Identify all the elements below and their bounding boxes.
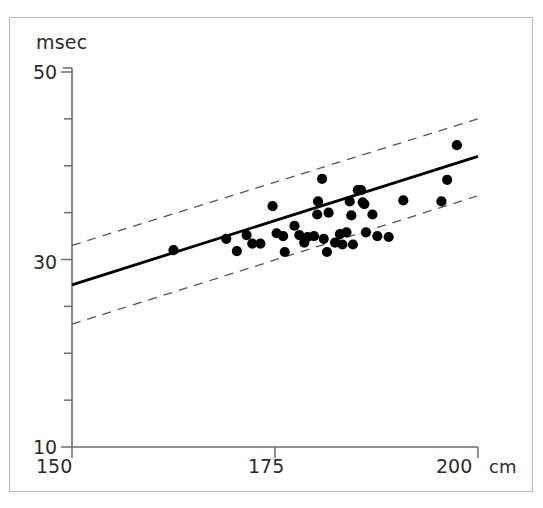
scatter-point: [289, 221, 299, 231]
scatter-point: [359, 199, 369, 209]
lower-confidence-band: [72, 196, 478, 324]
scatter-point: [168, 245, 178, 255]
scatter-point: [241, 230, 251, 240]
scatter-point: [356, 185, 366, 195]
x-tick-label-right: 200: [436, 455, 472, 477]
scatter-point: [309, 231, 319, 241]
regression-line-group: [72, 156, 478, 284]
y-tick-label-top: 50: [33, 61, 57, 83]
scatter-point: [372, 231, 382, 241]
scatter-point: [436, 196, 446, 206]
scatter-point: [346, 210, 356, 220]
axes-group: [61, 68, 478, 458]
scatter-point: [348, 239, 358, 249]
x-tick-label-left: 150: [36, 455, 72, 477]
scatter-point: [452, 140, 462, 150]
scatter-point: [267, 201, 277, 211]
scatter-point: [278, 231, 288, 241]
y-tick-label-middle: 30: [33, 251, 57, 273]
regression-line: [72, 156, 478, 284]
scatter-point: [232, 246, 242, 256]
scatter-point: [322, 247, 332, 257]
chart-figure: msec 50 30 10 150 175 200 cm: [0, 0, 543, 508]
y-axis-title: msec: [36, 31, 87, 53]
x-tick-label-middle: 175: [248, 455, 284, 477]
scatter-point: [312, 209, 322, 219]
scatter-point: [280, 247, 290, 257]
scatter-point: [313, 196, 323, 206]
scatter-point: [398, 195, 408, 205]
scatter-point: [317, 174, 327, 184]
scatter-point: [384, 232, 394, 242]
scatter-point: [337, 239, 347, 249]
scatter-point: [341, 227, 351, 237]
x-axis-unit-label: cm: [489, 456, 516, 477]
scatter-point: [367, 209, 377, 219]
scatter-point: [255, 238, 265, 248]
scatter-point: [319, 234, 329, 244]
scatter-point: [361, 227, 371, 237]
scatter-point: [442, 175, 452, 185]
plot-area: [0, 0, 543, 508]
scatter-point: [221, 234, 231, 244]
scatter-point: [345, 196, 355, 206]
upper-confidence-band: [72, 119, 478, 246]
scatter-point: [323, 208, 333, 218]
